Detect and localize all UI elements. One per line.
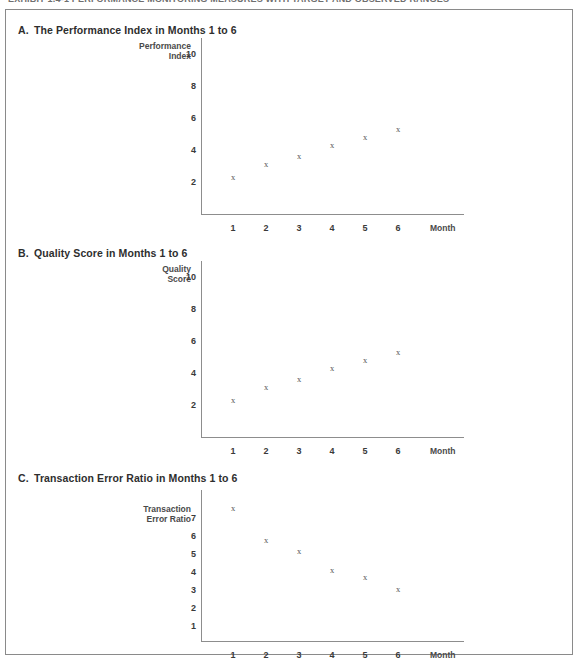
panel-c-ytick: 4 [182, 568, 196, 577]
data-point-marker: x [295, 547, 303, 555]
panel-a-ytick: 6 [182, 114, 196, 123]
panel-b-ytick: 2 [182, 401, 196, 410]
panel-b-ytick: 10 [182, 273, 196, 282]
panel-c-y-axis-line [201, 490, 202, 642]
panel-c: C.Transaction Error Ratio in Months 1 to… [6, 464, 574, 656]
panel-a-xtick: 1 [225, 224, 241, 233]
panel-a-ytick: 2 [182, 178, 196, 187]
data-point-marker: x [328, 566, 336, 574]
data-point-marker: x [295, 152, 303, 160]
panel-b-plot: Quality Score 10 8 6 4 2 x x x x x x 1 2… [6, 238, 574, 464]
panel-b-xtick: 1 [225, 447, 241, 456]
panel-c-xtick: 4 [324, 651, 340, 660]
data-point-marker: x [394, 125, 402, 133]
data-point-marker: x [229, 504, 237, 512]
panel-a-ytick: 8 [182, 82, 196, 91]
data-point-marker: x [394, 585, 402, 593]
panel-b-xtick: 5 [357, 447, 373, 456]
panel-c-ytick: 2 [182, 604, 196, 613]
panel-a-x-axis-line [201, 214, 464, 215]
panel-b-x-axis-label: Month [430, 447, 456, 456]
data-point-marker: x [262, 536, 270, 544]
data-point-marker: x [229, 396, 237, 404]
panel-c-ytick: 5 [182, 550, 196, 559]
panel-c-x-axis-line [201, 641, 464, 642]
panel-b-ytick: 4 [182, 369, 196, 378]
panel-b-ytick: 6 [182, 337, 196, 346]
panel-a-xtick: 6 [390, 224, 406, 233]
panel-a-ytick: 10 [182, 50, 196, 59]
cut-off-exhibit-header-text: EXHIBIT 1.4-1 PERFORMANCE MONITORING MEA… [8, 0, 449, 4]
panel-a-xtick: 4 [324, 224, 340, 233]
panel-a-xtick: 2 [258, 224, 274, 233]
panel-b-xtick: 2 [258, 447, 274, 456]
panel-a-x-axis-label: Month [430, 224, 456, 233]
data-point-marker: x [328, 364, 336, 372]
panel-b-xtick: 3 [291, 447, 307, 456]
data-point-marker: x [295, 375, 303, 383]
panel-b-xtick: 6 [390, 447, 406, 456]
panel-c-ytick: 7 [182, 514, 196, 523]
data-point-marker: x [394, 348, 402, 356]
panel-b-xtick: 4 [324, 447, 340, 456]
data-point-marker: x [229, 173, 237, 181]
panel-c-xtick: 5 [357, 651, 373, 660]
panel-c-xtick: 6 [390, 651, 406, 660]
cut-off-exhibit-header: EXHIBIT 1.4-1 PERFORMANCE MONITORING MEA… [0, 0, 579, 7]
panel-a-y-axis-line [201, 38, 202, 215]
panel-a-xtick: 3 [291, 224, 307, 233]
panel-c-xtick: 1 [225, 651, 241, 660]
panel-a-plot: Performance Index 10 8 6 4 2 x x x x x x… [6, 10, 574, 238]
data-point-marker: x [361, 573, 369, 581]
data-point-marker: x [262, 160, 270, 168]
panel-b-ytick: 8 [182, 305, 196, 314]
panel-b-y-axis-line [201, 261, 202, 438]
panel-c-xtick: 2 [258, 651, 274, 660]
panel-c-ytick: 1 [182, 622, 196, 631]
panel-c-xtick: 3 [291, 651, 307, 660]
data-point-marker: x [328, 141, 336, 149]
panel-a-xtick: 5 [357, 224, 373, 233]
panel-b: B.Quality Score in Months 1 to 6 Quality… [6, 238, 574, 464]
data-point-marker: x [361, 133, 369, 141]
panel-c-x-axis-label: Month [430, 651, 456, 660]
panel-a: A.The Performance Index in Months 1 to 6… [6, 10, 574, 238]
panel-c-ytick: 3 [182, 586, 196, 595]
exhibit-frame: A.The Performance Index in Months 1 to 6… [5, 9, 573, 655]
data-point-marker: x [361, 356, 369, 364]
panel-c-plot: Transaction Error Ratio 7 6 5 4 3 2 1 x … [6, 464, 574, 656]
data-point-marker: x [262, 383, 270, 391]
panel-b-x-axis-line [201, 437, 464, 438]
panel-a-ytick: 4 [182, 146, 196, 155]
panel-c-ytick: 6 [182, 532, 196, 541]
